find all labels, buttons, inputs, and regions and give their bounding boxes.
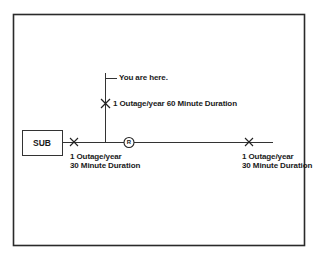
recloser-label: R: [124, 137, 134, 147]
far-fault-label-line2: 30 Minute Duration: [242, 161, 312, 170]
near-fault-label-line1: 1 Outage/year: [70, 152, 122, 161]
lateral-fault-label: 1 Outage/year 60 Minute Duration: [113, 99, 237, 108]
feeder-diagram: SUB R You are here. 1 Outage/year 60 Min…: [0, 0, 322, 260]
far-fault-label-line1: 1 Outage/year: [242, 152, 294, 161]
near-fault-label-line2: 30 Minute Duration: [70, 161, 140, 170]
substation-label: SUB: [22, 130, 62, 155]
you-are-here-label: You are here.: [119, 73, 168, 82]
